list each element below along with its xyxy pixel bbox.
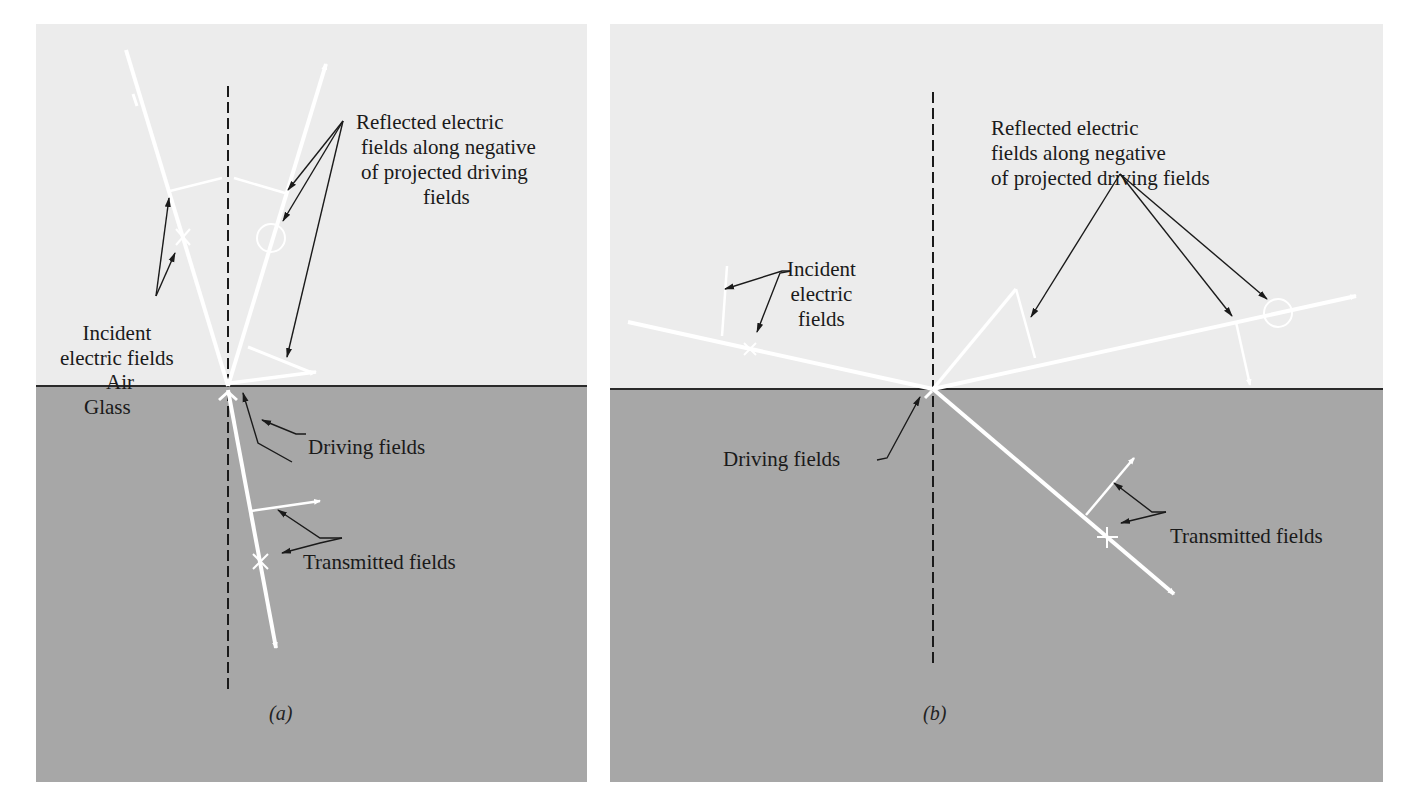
reflected-field-vector (234, 178, 285, 193)
transmitted-fields-label: Transmitted fields (303, 550, 456, 575)
reflected-fields-label: Reflected electric fields along negative… (356, 110, 536, 210)
incident-fields-label: Incident electric fields (60, 321, 174, 371)
transmitted-field-vector (1086, 458, 1134, 515)
driving-fields-label: Driving fields (723, 447, 840, 472)
driving-field-marker (925, 391, 932, 398)
reflected-field-vector (1016, 289, 1035, 358)
transmitted-fields-label: Transmitted fields (1170, 524, 1323, 549)
incident-ray (628, 322, 933, 389)
incident-field-vector (170, 178, 222, 191)
transmitted-field-vector (251, 501, 320, 511)
panel-b: Reflected electric fields along negative… (610, 24, 1383, 782)
panel-a: Reflected electric fields along negative… (36, 24, 587, 782)
reflected-fields-label: Reflected electric fields along negative… (991, 116, 1210, 191)
caption-b: (b) (923, 702, 946, 725)
transmitted-ray (228, 390, 276, 648)
driving-fields-label: Driving fields (308, 435, 425, 460)
caption-a: (a) (269, 702, 292, 725)
transmitted-ray (933, 389, 1174, 594)
air-label: Air (106, 370, 134, 395)
incident-fields-label: Incident electric fields (787, 257, 856, 332)
reflected-field-vector-2 (1236, 322, 1250, 385)
glass-label: Glass (84, 395, 131, 420)
projected-driving-field (230, 372, 316, 383)
incident-field-vector (722, 266, 727, 336)
